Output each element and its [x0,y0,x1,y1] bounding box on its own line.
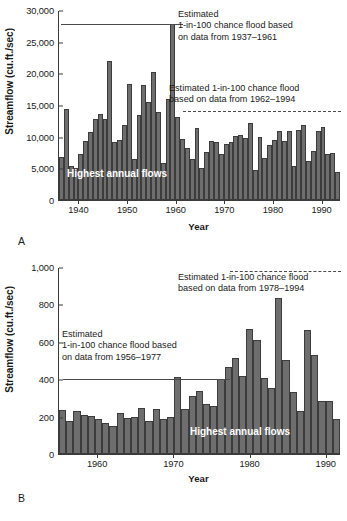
x-axis-tick-mark [224,200,225,204]
x-axis-title-b: Year [58,473,339,484]
annotation-1978-1994: Estimated 1-in-100 chance flood based on… [178,272,308,295]
threshold-line-1956-1977 [63,379,231,380]
bar [73,411,80,454]
highest-annual-flows-label-a: Highest annual flows [67,168,167,179]
bar [232,358,239,454]
bar [217,379,224,454]
bar [225,367,232,454]
x-axis-tick-label: 1970 [214,205,234,215]
y-axis-tick-label: 1,000 [31,263,59,273]
y-axis-tick-mark [59,11,63,12]
y-axis-tick-mark [59,268,63,269]
y-axis-tick-label: 30,000 [26,6,59,16]
bar [297,411,304,454]
panel-label-b: B [18,492,25,504]
y-axis-tick-mark [59,417,63,418]
bar [268,388,275,454]
bar [282,360,289,454]
y-axis-title-b: Streamflow (cu.ft./sec) [4,286,15,393]
bar [318,401,325,454]
annotation-1956-1977: Estimated 1-in-100 chance flood based on… [62,329,177,363]
y-axis-tick-label: 5,000 [31,164,59,174]
x-axis-tick-label: 1970 [163,459,183,469]
bar [290,392,297,454]
bar [109,426,116,454]
bar [131,417,138,454]
x-axis-tick-mark [326,454,327,458]
x-axis-tick-mark [250,454,251,458]
bar [88,416,95,454]
y-axis-tick-label: 0 [49,450,59,460]
x-axis-tick-mark [127,200,128,204]
y-axis-tick-label: 0 [49,196,59,206]
streamflow-figure: Streamflow (cu.ft./sec) 05,00010,00015,0… [0,0,347,521]
y-axis-tick-label: 200 [39,413,59,423]
bar [261,378,268,454]
y-axis-tick-label: 15,000 [26,101,59,111]
x-axis-tick-label: 1960 [166,205,186,215]
highest-annual-flows-label-b: Highest annual flows [190,426,290,437]
x-axis-tick-mark [173,454,174,458]
bar [145,421,152,454]
chart-panel-b: Streamflow (cu.ft./sec) 02004006008001,0… [0,256,347,516]
x-axis-tick-label: 1980 [263,205,283,215]
y-axis-tick-mark [59,106,63,107]
bar [304,330,311,454]
bar [153,409,160,454]
annotation-1962-1994: Estimated 1-in-100 chance flood based on… [169,83,299,106]
y-axis-tick-label: 600 [39,338,59,348]
annotation-1937-1961: Estimated 1-in-100 chance flood based on… [178,9,293,43]
bar [66,421,73,454]
y-axis-tick-mark [59,74,63,75]
y-axis-tick-label: 400 [39,375,59,385]
y-axis-tick-mark [59,137,63,138]
x-axis-tick-mark [322,200,323,204]
bar [81,415,88,454]
x-axis-tick-label: 1990 [311,205,331,215]
x-axis-tick-mark [176,200,177,204]
chart-panel-a: Streamflow (cu.ft./sec) 05,00010,00015,0… [0,0,347,260]
bar [335,172,340,200]
x-axis-tick-label: 1940 [68,205,88,215]
threshold-line-1937-1961 [61,24,183,25]
y-axis-tick-label: 25,000 [26,38,59,48]
y-axis-tick-mark [59,380,63,381]
bar [160,419,167,454]
x-axis-tick-label: 1990 [316,459,336,469]
bar [333,419,340,454]
x-axis-title-a: Year [58,221,339,232]
y-axis-tick-label: 20,000 [26,69,59,79]
x-axis-tick-label: 1960 [87,459,107,469]
bar [138,408,145,455]
threshold-line-1962-1994 [183,111,341,112]
bar [167,417,174,454]
bar [196,391,203,454]
x-axis-tick-label: 1980 [239,459,259,469]
x-axis-tick-mark [273,200,274,204]
y-axis-title-a: Streamflow (cu.ft./sec) [4,28,15,135]
panel-label-a: A [18,235,25,247]
bar [102,423,109,454]
y-axis-tick-label: 800 [39,300,59,310]
bar [117,413,124,454]
y-axis-tick-label: 10,000 [26,133,59,143]
bar [95,419,102,454]
bar [311,355,318,454]
y-axis-tick-mark [59,42,63,43]
bar [189,396,196,454]
bar [181,409,188,454]
x-axis-tick-mark [97,454,98,458]
x-axis-tick-mark [78,200,79,204]
x-axis-tick-label: 1950 [117,205,137,215]
bar [326,401,333,454]
bar [124,418,131,454]
bar [174,377,181,454]
y-axis-tick-mark [59,169,63,170]
y-axis-tick-mark [59,305,63,306]
bar [239,376,246,454]
